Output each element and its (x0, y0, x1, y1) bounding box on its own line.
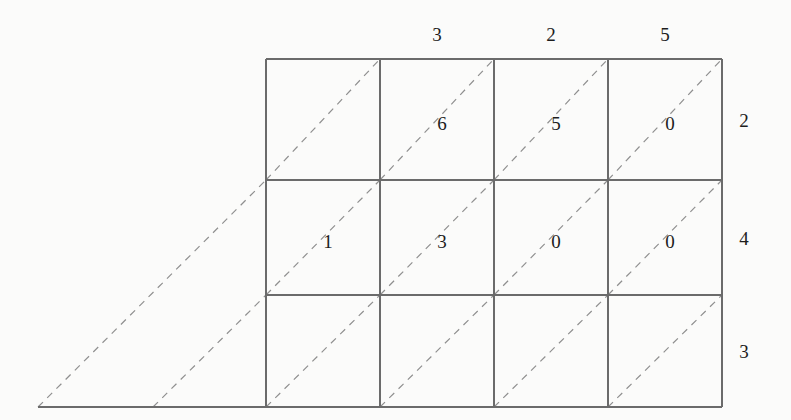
cell-value-r1c2: 6 (437, 114, 447, 133)
grid-diagram-svg (0, 0, 791, 420)
right-label-row-2: 4 (739, 228, 749, 247)
cell-value-r1c4: 0 (665, 114, 675, 133)
right-label-row-1: 2 (739, 110, 749, 129)
cell-value-r2c4: 0 (665, 231, 675, 250)
figure-canvas: 3 2 5 2 4 3 6 5 0 1 3 0 0 (0, 0, 791, 420)
top-label-col-2: 3 (432, 25, 442, 44)
top-label-col-3: 2 (546, 25, 556, 44)
cell-value-r1c3: 5 (551, 114, 561, 133)
grid-solid-lines (38, 59, 722, 407)
cell-value-r2c2: 3 (437, 231, 447, 250)
cell-value-r2c3: 0 (551, 231, 561, 250)
right-label-row-3: 3 (739, 342, 749, 361)
cell-value-r2c1: 1 (323, 231, 333, 250)
top-label-col-4: 5 (660, 25, 670, 44)
